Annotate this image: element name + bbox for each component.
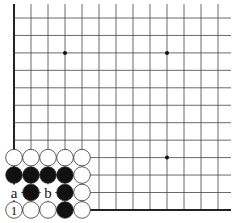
black-stone	[6, 167, 23, 184]
white-stone	[40, 149, 57, 166]
white-stone	[6, 149, 23, 166]
white-stone	[74, 167, 91, 184]
point-label-b: b	[44, 185, 52, 201]
white-stone	[23, 149, 40, 166]
black-stone	[57, 184, 74, 201]
white-stone	[57, 149, 74, 166]
black-stone	[40, 167, 57, 184]
star-point	[63, 51, 67, 55]
star-point	[165, 51, 169, 55]
black-stone	[57, 202, 74, 219]
black-stone	[57, 167, 74, 184]
white-stone: 1	[6, 202, 23, 219]
white-stone	[40, 202, 57, 219]
white-stone	[74, 149, 91, 166]
point-label-a: a	[11, 185, 18, 201]
move-number-label: 1	[11, 203, 18, 218]
black-stone	[23, 167, 40, 184]
white-stone	[74, 202, 91, 219]
white-stone	[23, 202, 40, 219]
white-stone	[74, 184, 91, 201]
star-point	[165, 156, 169, 160]
go-board: 1 ab	[0, 0, 233, 223]
black-stone	[23, 184, 40, 201]
